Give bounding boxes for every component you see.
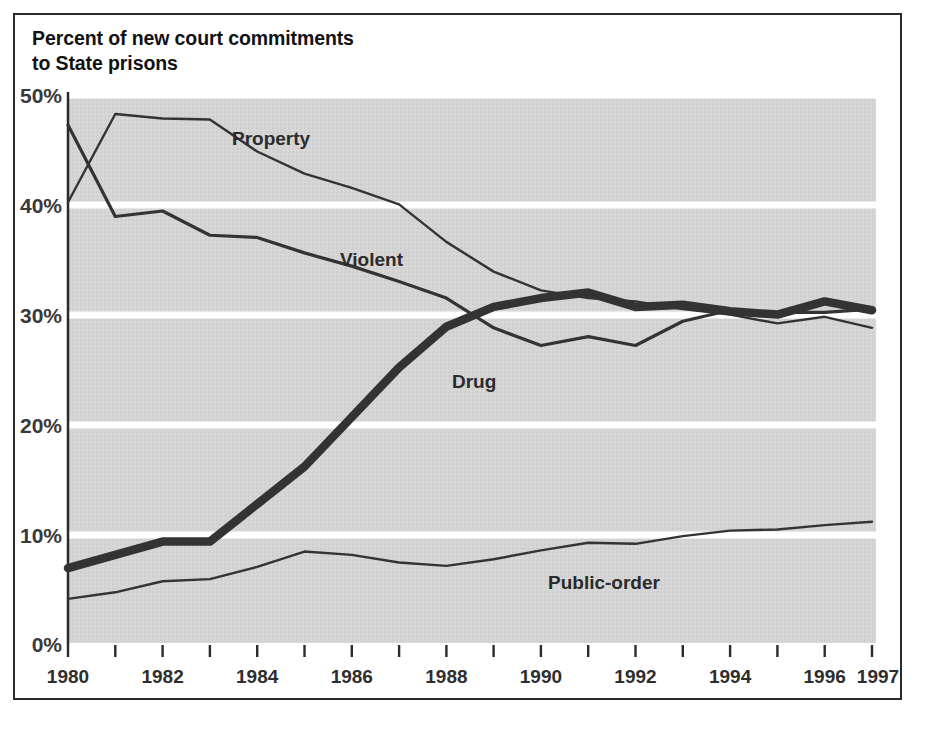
- chart-frame: [13, 13, 902, 700]
- page-title: Percent of new court commitments to Stat…: [32, 26, 354, 75]
- chart-figure: Percent of new court commitments to Stat…: [0, 0, 932, 730]
